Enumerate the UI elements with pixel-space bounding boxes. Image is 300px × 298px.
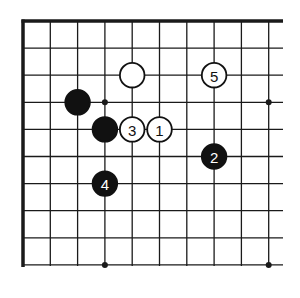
- grid-lines: [23, 21, 283, 266]
- move-number: 3: [128, 122, 136, 139]
- board-edges: [22, 20, 284, 268]
- move-number: 4: [101, 176, 109, 193]
- white-stone-5: 5: [202, 63, 227, 88]
- star-point: [266, 262, 272, 268]
- black-stone-2: 2: [202, 144, 227, 169]
- star-point: [102, 262, 108, 268]
- black-stone: [93, 117, 118, 142]
- white-stone-3: 3: [120, 117, 145, 142]
- star-point: [102, 99, 108, 105]
- black-stone-icon: [93, 117, 118, 142]
- black-stone-4: 4: [93, 171, 118, 196]
- move-number: 1: [155, 122, 163, 139]
- go-board: 53124: [0, 0, 300, 298]
- white-stone-1: 1: [147, 117, 172, 142]
- move-number: 5: [210, 68, 218, 85]
- black-stone-icon: [65, 90, 90, 115]
- white-stone: [120, 63, 145, 88]
- move-number: 2: [210, 149, 218, 166]
- white-stone-icon: [120, 63, 145, 88]
- star-point: [266, 99, 272, 105]
- black-stone: [65, 90, 90, 115]
